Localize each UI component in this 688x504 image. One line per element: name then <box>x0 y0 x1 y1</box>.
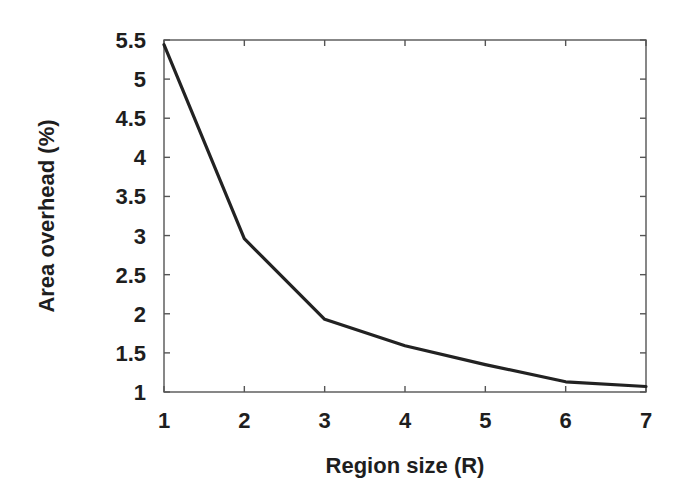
x-tick-label: 4 <box>399 408 412 433</box>
line-chart: 11.522.533.544.555.5 1234567 Region size… <box>0 0 688 504</box>
x-tick-label: 5 <box>479 408 491 433</box>
y-tick-label: 4 <box>134 145 147 170</box>
y-axis-ticks: 11.522.533.544.555.5 <box>115 28 646 405</box>
y-tick-label: 5 <box>134 67 146 92</box>
y-tick-label: 5.5 <box>115 28 146 53</box>
y-axis-title: Area overhead (%) <box>34 119 59 312</box>
x-tick-label: 3 <box>319 408 331 433</box>
y-tick-label: 1 <box>134 380 146 405</box>
x-tick-label: 2 <box>238 408 250 433</box>
y-tick-label: 2.5 <box>115 263 146 288</box>
x-axis-ticks: 1234567 <box>158 40 652 433</box>
x-tick-label: 7 <box>640 408 652 433</box>
x-axis-title: Region size (R) <box>326 453 485 478</box>
y-tick-label: 2 <box>134 302 146 327</box>
x-tick-label: 1 <box>158 408 170 433</box>
y-tick-label: 4.5 <box>115 106 146 131</box>
area-overhead-line <box>164 45 646 387</box>
x-tick-label: 6 <box>560 408 572 433</box>
y-tick-label: 1.5 <box>115 341 146 366</box>
y-tick-label: 3.5 <box>115 184 146 209</box>
y-tick-label: 3 <box>134 224 146 249</box>
